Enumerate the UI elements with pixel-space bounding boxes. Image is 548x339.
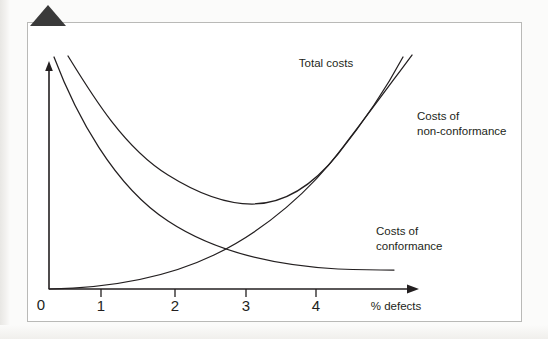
curve-costs-of-non-conformance [49,55,412,289]
screenshot-page: 0 1 2 3 4 % defects Total costs Costs of… [0,0,548,339]
y-axis-arrowhead [45,61,53,71]
label-conformance-line1: Costs of [376,225,419,237]
cost-of-quality-chart: 0 1 2 3 4 % defects Total costs Costs of… [28,23,521,321]
curve-total-costs [68,56,403,204]
x-tick-label-2: 2 [171,297,179,314]
scan-edge-left [0,0,10,339]
x-tick-label-4: 4 [312,297,320,314]
x-tick-label-3: 3 [242,297,250,314]
label-non-conformance-line2: non-conformance [417,125,507,137]
curve-costs-of-conformance [54,57,394,270]
label-total-costs: Total costs [299,57,354,69]
x-tick-label-1: 1 [97,297,105,314]
scan-triangle-mark [27,2,97,28]
figure-frame: 0 1 2 3 4 % defects Total costs Costs of… [27,22,522,322]
x-tick-label-0: 0 [37,296,45,313]
label-non-conformance-line1: Costs of [417,110,460,122]
x-axis-arrowhead [407,285,419,294]
scan-edge-bottom [0,325,548,339]
x-axis-label: % defects [371,300,422,312]
label-conformance-line2: conformance [376,240,442,252]
